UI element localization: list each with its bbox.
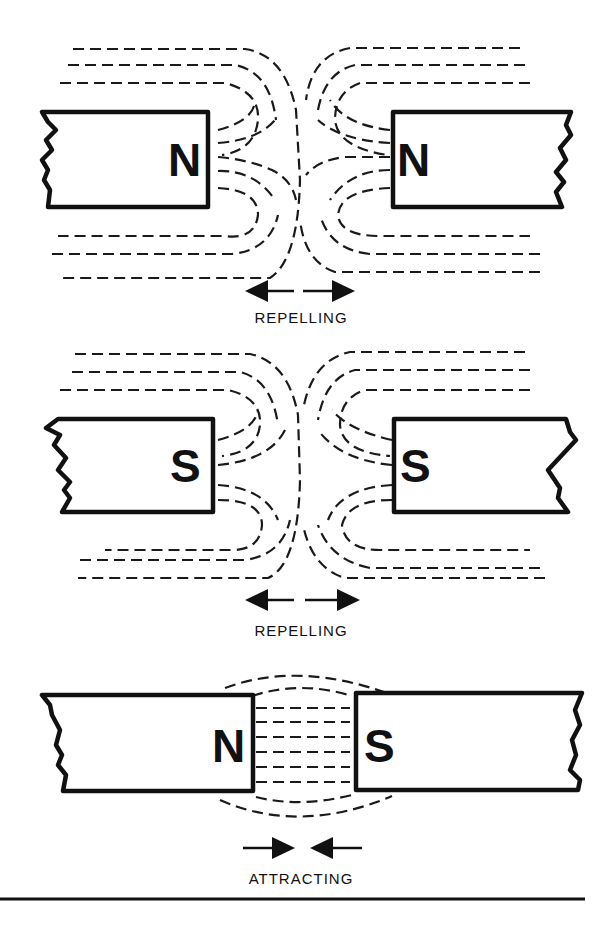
arrow-left-icon	[245, 589, 268, 611]
repel-arrows	[245, 589, 360, 611]
repel-arrows	[245, 280, 355, 302]
attract-arrows	[243, 837, 362, 859]
arrow-right-icon	[272, 837, 295, 859]
pole-label-right: S	[364, 720, 395, 772]
pole-label-right: N	[397, 134, 430, 186]
arrow-right-icon	[332, 280, 355, 302]
panel-s-s: S S REPELLING	[46, 352, 576, 639]
pole-label-right: S	[400, 440, 431, 492]
caption-repelling: REPELLING	[254, 622, 347, 639]
panel-n-n: N N REPELLING	[42, 48, 571, 326]
arrow-left-icon	[310, 837, 333, 859]
pole-label-left: N	[212, 720, 245, 772]
caption-attracting: ATTRACTING	[249, 870, 354, 887]
arrow-left-icon	[245, 280, 268, 302]
arrow-right-icon	[337, 589, 360, 611]
pole-label-left: N	[168, 134, 201, 186]
magnet-diagram: N N REPELLING	[0, 0, 607, 941]
pole-label-left: S	[170, 440, 201, 492]
panel-n-s: N S ATTRACTING	[42, 676, 582, 887]
caption-repelling: REPELLING	[254, 309, 347, 326]
